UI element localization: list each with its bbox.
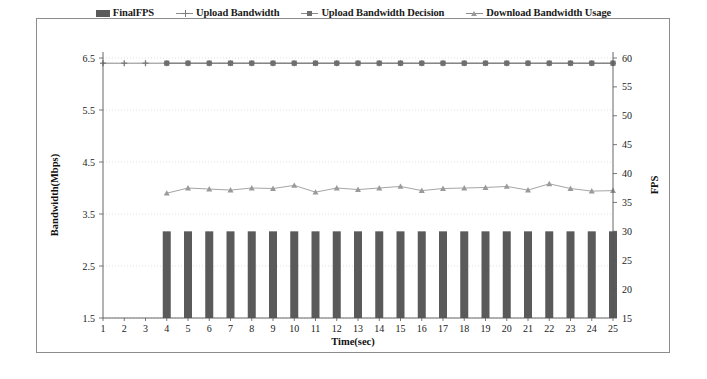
x-tick-label: 24: [587, 323, 597, 334]
x-tick-label: 9: [271, 323, 276, 334]
x-axis-title: Time(sec): [331, 336, 375, 348]
x-tick-label: 25: [608, 323, 618, 334]
x-tick-label: 6: [207, 323, 212, 334]
y-right-tick-label: 35: [622, 197, 632, 208]
x-tick-label: 17: [438, 323, 448, 334]
x-tick-label: 1: [101, 323, 106, 334]
x-axis-tick-labels: 1234567891011121314151617181920212223242…: [101, 323, 619, 334]
x-tick-label: 18: [459, 323, 469, 334]
x-tick-label: 8: [249, 323, 254, 334]
y-left-tick-label: 2.5: [83, 261, 96, 272]
y-axis-left-tick-labels: 1.52.53.54.55.56.5: [83, 53, 96, 324]
series-finalfps-bars: [163, 231, 617, 318]
y-left-tick-label: 5.5: [83, 105, 96, 116]
x-tick-label: 12: [332, 323, 342, 334]
chart-svg: 1234567891011121314151617181920212223242…: [0, 0, 707, 379]
y-axis-left-title: Bandwidth(Mbps): [49, 153, 61, 236]
x-tick-label: 4: [164, 323, 169, 334]
y-right-tick-label: 30: [622, 226, 632, 237]
y-axis-right-title: FPS: [649, 176, 660, 195]
series-lines: [100, 60, 616, 195]
x-tick-label: 20: [502, 323, 512, 334]
y-right-tick-label: 50: [622, 110, 632, 121]
x-tick-label: 23: [566, 323, 576, 334]
x-tick-label: 15: [396, 323, 406, 334]
x-tick-label: 14: [374, 323, 384, 334]
y-left-tick-label: 4.5: [83, 157, 96, 168]
y-left-tick-label: 1.5: [83, 313, 96, 324]
y-left-tick-label: 3.5: [83, 209, 96, 220]
y-right-tick-label: 60: [622, 53, 632, 64]
y-right-tick-label: 55: [622, 81, 632, 92]
y-right-tick-label: 45: [622, 139, 632, 150]
y-right-tick-label: 15: [622, 313, 632, 324]
y-left-tick-label: 6.5: [83, 53, 96, 64]
y-axis-right-tick-labels: 15202530354045505560: [622, 53, 632, 324]
x-tick-label: 13: [353, 323, 363, 334]
x-tick-label: 19: [481, 323, 491, 334]
x-tick-label: 7: [228, 323, 233, 334]
x-tick-label: 22: [544, 323, 554, 334]
x-tick-label: 3: [143, 323, 148, 334]
x-tick-label: 10: [289, 323, 299, 334]
x-tick-label: 21: [523, 323, 533, 334]
y-right-tick-label: 20: [622, 284, 632, 295]
y-right-tick-label: 25: [622, 255, 632, 266]
x-tick-label: 16: [417, 323, 427, 334]
y-right-tick-label: 40: [622, 168, 632, 179]
x-tick-label: 2: [122, 323, 127, 334]
x-tick-label: 5: [186, 323, 191, 334]
plot-area: 1234567891011121314151617181920212223242…: [0, 0, 707, 379]
x-tick-label: 11: [311, 323, 321, 334]
